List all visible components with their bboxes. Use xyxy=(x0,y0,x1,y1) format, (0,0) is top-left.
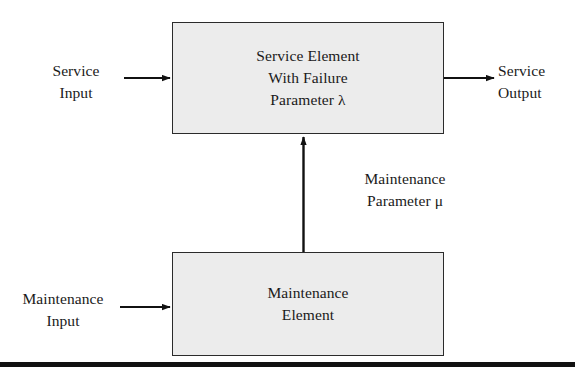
maintenance-input-label: Maintenance Input xyxy=(4,288,122,332)
service-element-line-2: With Failure xyxy=(268,67,347,89)
service-output-label: Service Output xyxy=(498,60,575,104)
bottom-divider-rule xyxy=(0,362,575,367)
service-output-line-1: Service xyxy=(498,60,575,82)
maintenance-element-block: Maintenance Element xyxy=(172,252,444,356)
service-input-line-2: Input xyxy=(28,82,124,104)
maintenance-parameter-label: Maintenance Parameter μ xyxy=(330,168,480,212)
service-element-line-3: Parameter λ xyxy=(270,89,345,111)
maintenance-input-line-2: Input xyxy=(4,310,122,332)
service-input-line-1: Service xyxy=(28,60,124,82)
maintenance-parameter-line-1: Maintenance xyxy=(330,168,480,190)
service-element-block: Service Element With Failure Parameter λ xyxy=(172,22,444,134)
maintenance-element-line-1: Maintenance xyxy=(267,282,348,304)
maintenance-element-line-2: Element xyxy=(282,304,334,326)
service-element-line-1: Service Element xyxy=(256,45,360,67)
maintenance-input-line-1: Maintenance xyxy=(4,288,122,310)
service-output-line-2: Output xyxy=(498,82,575,104)
maintenance-parameter-line-2: Parameter μ xyxy=(330,190,480,212)
service-input-label: Service Input xyxy=(28,60,124,104)
diagram-canvas: Service Element With Failure Parameter λ… xyxy=(0,0,575,378)
